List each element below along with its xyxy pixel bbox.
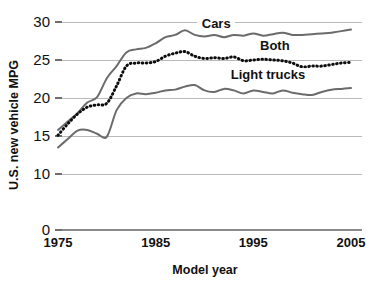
x-axis-title: Model year	[172, 263, 237, 277]
series-line-both	[58, 52, 351, 136]
x-tick-label-1995: 1995	[239, 235, 268, 250]
x-axis: 1975198519952005	[44, 235, 366, 250]
y-tick-label-10: 10	[33, 165, 50, 182]
series-line-light-trucks	[58, 85, 351, 147]
y-axis-title: U.S. new vehicle MPG	[7, 60, 21, 190]
y-tick-label-25: 25	[33, 51, 50, 68]
series-label-cars: Cars	[202, 16, 231, 31]
y-tick-label-15: 15	[33, 127, 50, 144]
y-axis-ticks: 01015202530	[33, 13, 62, 238]
x-tick-label-1975: 1975	[44, 235, 73, 250]
data-series	[58, 30, 351, 148]
y-tick-label-30: 30	[33, 13, 50, 30]
series-annotations: CarsBothLight trucks	[197, 16, 316, 83]
x-tick-label-1985: 1985	[141, 235, 170, 250]
series-label-both: Both	[260, 38, 290, 53]
gridlines	[62, 22, 362, 230]
mpg-line-chart: 01015202530 1975198519952005 CarsBothLig…	[0, 0, 370, 281]
y-tick-label-20: 20	[33, 89, 50, 106]
series-label-light-trucks: Light trucks	[231, 67, 305, 82]
chart-canvas: 01015202530 1975198519952005 CarsBothLig…	[0, 0, 370, 281]
x-tick-label-2005: 2005	[337, 235, 366, 250]
